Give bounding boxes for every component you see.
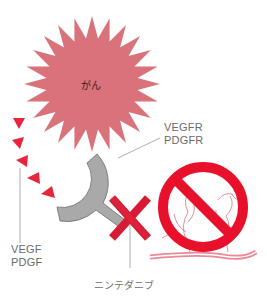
receptor-icon	[57, 154, 125, 226]
drug-label: ニンテダニブ	[94, 280, 154, 292]
growth-factor-triangles-icon	[12, 118, 55, 198]
growth-factor-label-vegf: VEGF	[11, 243, 42, 255]
growth-factor-label-pdgf: PDGF	[11, 256, 42, 268]
receptor-label-pdgfr: PDGFR	[164, 134, 204, 146]
cancer-label: がん	[81, 77, 101, 92]
angiogenesis-blocked-icon	[150, 167, 256, 257]
receptor-label-vegfr: VEGFR	[164, 121, 203, 133]
